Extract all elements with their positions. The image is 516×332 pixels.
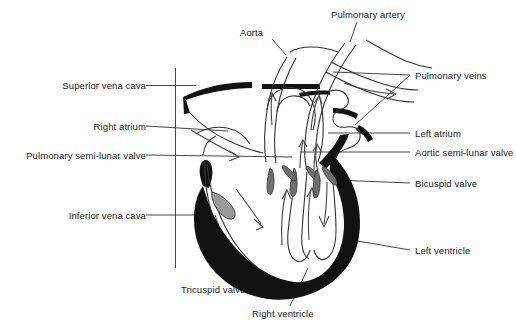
pulmonary-vein-wall-lower (356, 125, 373, 142)
leader-pulmonary-veins-upper (333, 72, 410, 75)
pulmonary-artery-branch-lower (326, 72, 414, 102)
arrow-pv-left-shaft (300, 142, 303, 168)
arrow-lv-out-shaft (308, 190, 311, 240)
label-pulmonary-artery: Pulmonary artery (331, 9, 405, 20)
pulmonary-artery-branch-upper (331, 62, 418, 90)
label-aortic-semi-lunar-valve: Aortic semi-lunar valve (415, 147, 513, 158)
arrow-rv-out-shaft (282, 192, 286, 245)
label-left-ventricle: Left ventricle (415, 245, 470, 256)
leader-pulmonary-artery (350, 22, 357, 42)
valve-cusps (212, 166, 338, 220)
aortic-valve-cusp-left (267, 168, 274, 194)
label-pulmonary-semi-lunar-valve: Pulmonary semi-lunar valve (0, 150, 146, 161)
septum-right-line (302, 172, 309, 259)
label-pulmonary-veins: Pulmonary veins (415, 70, 487, 81)
leader-aorta (272, 39, 286, 55)
label-right-atrium: Right atrium (0, 121, 146, 132)
left-ventricle-myocardium (194, 152, 360, 300)
arrow-aorta-shaft (271, 95, 272, 125)
superior-vena-cava-wall (183, 82, 252, 100)
label-left-atrium: Left atrium (415, 128, 461, 139)
right-atrium-floor (190, 113, 263, 153)
heart-diagram-page: Superior vena cava Right atrium Pulmonar… (0, 0, 516, 332)
label-bicuspid-valve: Bicuspid valve (415, 178, 477, 189)
leader-pulmonary-veins-lower (355, 75, 410, 125)
heart-diagram-illustration (0, 0, 516, 332)
label-superior-vena-cava: Superior vena cava (0, 80, 146, 91)
label-right-ventricle: Right ventricle (252, 308, 314, 319)
right-atrium-inner-arc (196, 127, 250, 144)
label-aorta: Aorta (240, 27, 263, 38)
leader-left-ventricle (352, 240, 410, 250)
aorta-branch-outer (366, 40, 432, 68)
arrow-rv-fill-shaft (236, 189, 261, 224)
aorta-outline-left (265, 57, 287, 162)
aortic-arch-outline-inner2 (277, 96, 310, 112)
label-tricuspid-valve: Tricuspid valve (181, 284, 246, 295)
pulmonary-vein-wall-mid (333, 108, 358, 119)
leader-pulmonary-semi-lunar-valve (146, 155, 292, 157)
aortic-arch-band (262, 84, 320, 89)
pulmonary-artery-branch-left (290, 47, 338, 52)
right-atrium-left-arc (203, 136, 216, 155)
arrow-lv-fill-shaft (324, 182, 327, 224)
label-inferior-vena-cava: Inferior vena cava (0, 210, 146, 221)
